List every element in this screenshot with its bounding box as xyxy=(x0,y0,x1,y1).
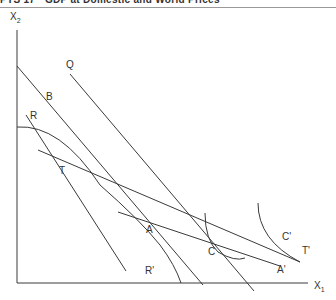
line-Q xyxy=(70,74,254,291)
label-A-prime: A' xyxy=(277,264,286,275)
label-C: C xyxy=(208,246,215,257)
line-R xyxy=(26,115,126,271)
line-B xyxy=(17,66,203,285)
y-axis-label: X2 xyxy=(10,11,21,24)
line-A-A-prime xyxy=(118,212,280,266)
label-C-prime: C' xyxy=(282,231,291,242)
label-T-prime: T' xyxy=(302,245,310,256)
trade-diagram: X2 X1 Q B R T A C C' T' A' R' xyxy=(0,0,336,300)
label-R: R xyxy=(30,110,37,121)
x-axis-label: X1 xyxy=(314,280,325,293)
label-R-prime: R' xyxy=(145,265,154,276)
label-T: T xyxy=(59,165,65,176)
label-B: B xyxy=(46,91,53,102)
production-possibility-curve xyxy=(17,127,181,283)
label-Q: Q xyxy=(66,59,74,70)
label-A: A xyxy=(146,224,153,235)
